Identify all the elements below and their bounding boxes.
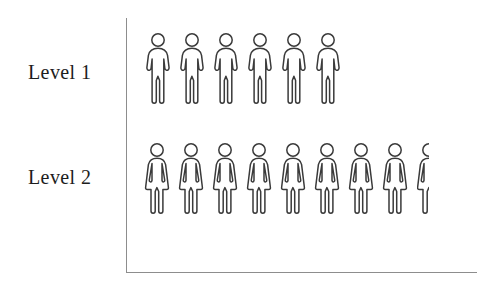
- x-axis-line: [126, 272, 477, 273]
- y-axis-line: [126, 18, 127, 273]
- person-male-icon: [316, 32, 340, 104]
- pictogram-row-level-1: [146, 31, 340, 104]
- category-label-level-1: Level 1: [28, 62, 91, 82]
- person-female-icon: [145, 142, 169, 214]
- person-female-icon: [349, 142, 373, 214]
- person-female-half-icon: [417, 142, 441, 214]
- person-male-icon: [146, 32, 170, 104]
- pictogram-chart: Level 1 Level 2: [0, 0, 491, 301]
- person-female-icon: [383, 142, 407, 214]
- person-male-icon: [248, 32, 272, 104]
- person-female-icon: [213, 142, 237, 214]
- person-female-icon: [179, 142, 203, 214]
- person-female-icon: [281, 142, 305, 214]
- category-label-level-2: Level 2: [28, 167, 91, 187]
- person-female-icon: [315, 142, 339, 214]
- person-male-icon: [180, 32, 204, 104]
- person-male-icon: [282, 32, 306, 104]
- pictogram-row-level-2: [145, 141, 441, 214]
- person-male-icon: [214, 32, 238, 104]
- person-female-icon: [247, 142, 271, 214]
